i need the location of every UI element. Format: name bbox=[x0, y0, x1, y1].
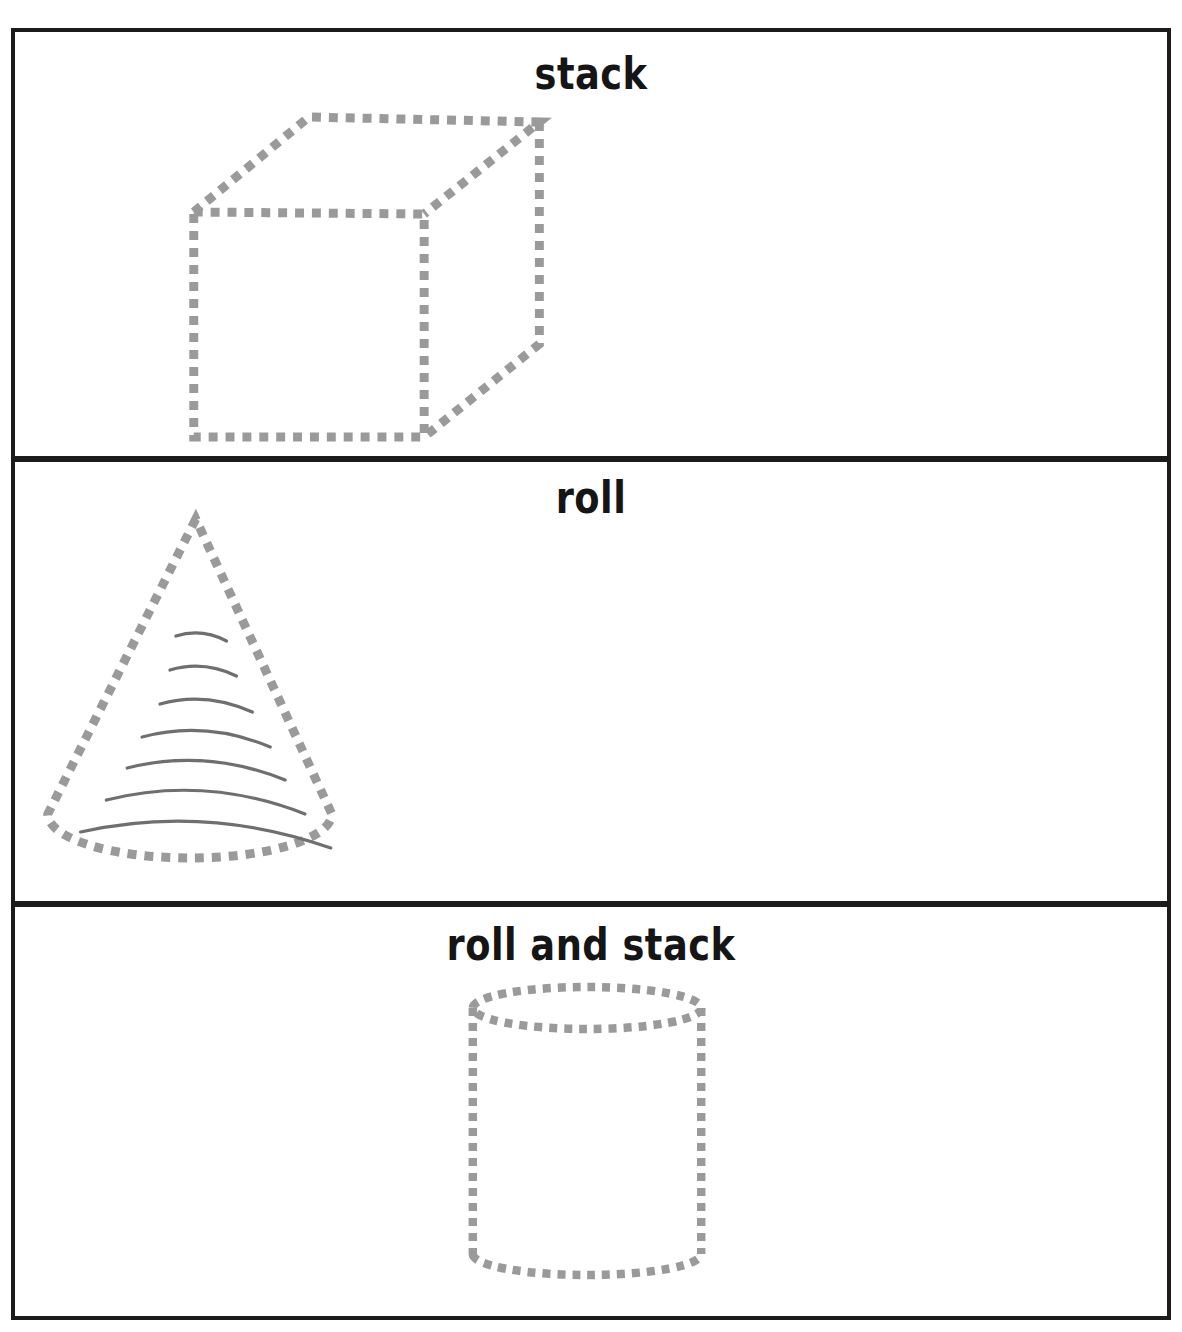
cone-rib-7 bbox=[81, 821, 331, 848]
cone-figure bbox=[15, 462, 1167, 901]
panel-title-stack: stack bbox=[55, 52, 1126, 96]
cone-rib-5 bbox=[127, 760, 285, 780]
cube-top-face-outline bbox=[194, 117, 540, 214]
cone-rib-1 bbox=[176, 633, 227, 641]
cylinder-top-ellipse bbox=[473, 987, 701, 1029]
cube-front-face-outline bbox=[194, 212, 424, 437]
cone-rib-2 bbox=[170, 666, 237, 676]
panel-title-roll: roll bbox=[55, 476, 1126, 520]
cone-outline bbox=[48, 519, 332, 858]
worksheet-page: stack roll bbox=[0, 0, 1182, 1332]
cone-rib-6 bbox=[106, 790, 305, 814]
panel-roll-and-stack: roll and stack bbox=[11, 903, 1171, 1320]
cone-rib-lines bbox=[81, 633, 331, 848]
cube-right-face-outline bbox=[424, 122, 539, 437]
panel-roll: roll bbox=[11, 458, 1171, 905]
panel-stack: stack bbox=[11, 28, 1171, 460]
cone-rib-3 bbox=[160, 699, 252, 712]
cylinder-bottom-arc bbox=[473, 1254, 701, 1275]
cone-rib-4 bbox=[142, 730, 270, 747]
panel-title-roll-and-stack: roll and stack bbox=[55, 923, 1126, 967]
